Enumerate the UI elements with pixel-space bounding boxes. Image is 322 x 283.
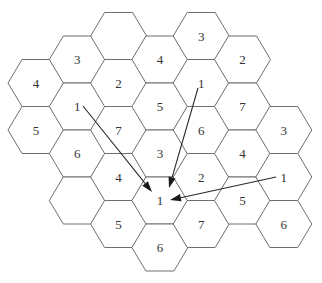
cell-label: 3: [198, 29, 205, 44]
cell-label: 5: [115, 217, 122, 232]
hex-cell-diagram: 45316274545316316272745316: [0, 0, 322, 283]
cell-label: 3: [157, 146, 164, 161]
cell-label: 6: [198, 123, 205, 138]
cell-label: 5: [33, 123, 40, 138]
cell-label: 4: [33, 76, 40, 91]
cell-label: 5: [239, 193, 246, 208]
cell-label: 6: [74, 146, 81, 161]
cell-label: 6: [157, 240, 164, 255]
cell-label: 5: [157, 99, 164, 114]
cell-label: 1: [157, 193, 164, 208]
cell-label: 4: [239, 146, 246, 161]
hex-grid: 45316274545316316272745316: [8, 13, 312, 272]
cell-label: 1: [198, 76, 205, 91]
cell-label: 4: [157, 52, 164, 67]
cell-label: 1: [74, 99, 81, 114]
cell-label: 2: [198, 170, 205, 185]
cell-label: 7: [239, 99, 246, 114]
cell-label: 3: [74, 52, 81, 67]
cell-label: 2: [115, 76, 122, 91]
cell-label: 2: [239, 52, 246, 67]
cell-label: 4: [115, 170, 122, 185]
cell-label: 1: [281, 170, 288, 185]
cell-label: 6: [281, 217, 288, 232]
cell-label: 7: [115, 123, 122, 138]
cell-label: 3: [281, 123, 288, 138]
cell-label: 7: [198, 217, 205, 232]
